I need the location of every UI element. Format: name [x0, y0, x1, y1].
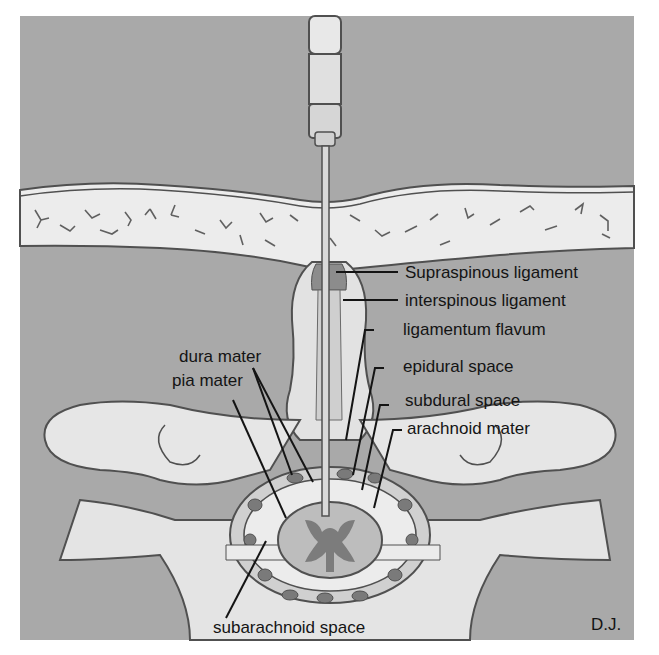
- label-pia-mater: pia mater: [172, 371, 243, 390]
- spinal-diagram: Supraspinous ligament interspinous ligam…: [0, 0, 659, 655]
- needle-hub-top: [309, 16, 341, 54]
- label-interspinous-ligament: interspinous ligament: [405, 291, 566, 310]
- label-supraspinous-ligament: Supraspinous ligament: [405, 263, 578, 282]
- label-subarachnoid-space: subarachnoid space: [213, 618, 365, 637]
- signature: D.J.: [591, 615, 621, 634]
- needle-collar: [315, 132, 335, 146]
- label-subdural-space: subdural space: [405, 391, 520, 410]
- needle-shaft: [322, 146, 329, 516]
- label-arachnoid-mater: arachnoid mater: [407, 419, 530, 438]
- needle-hub-middle: [309, 54, 341, 104]
- label-epidural-space: epidural space: [403, 357, 514, 376]
- label-ligamentum-flavum: ligamentum flavum: [403, 320, 546, 339]
- label-dura-mater: dura mater: [179, 347, 262, 366]
